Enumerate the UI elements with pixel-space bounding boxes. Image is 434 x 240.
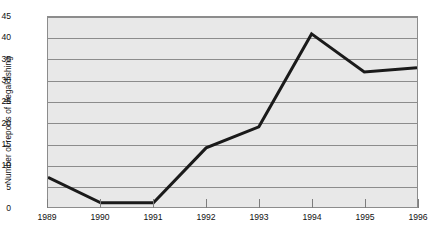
x-tick-label: 1994 [289, 212, 335, 222]
x-tick-label: 1993 [236, 212, 282, 222]
x-tick-label: 1990 [77, 212, 123, 222]
x-tick-label: 1991 [130, 212, 176, 222]
x-tick-mark [365, 199, 366, 208]
line-chart: Number of reports of illegal fishing 051… [0, 0, 434, 240]
x-tick-label: 1996 [395, 212, 434, 222]
x-tick-mark [100, 199, 101, 208]
x-tick-mark [418, 199, 419, 208]
x-tick-label: 1995 [342, 212, 388, 222]
x-tick-mark [259, 199, 260, 208]
x-tick-mark [206, 199, 207, 208]
x-tick-mark [47, 199, 48, 208]
x-tick-label: 1992 [183, 212, 229, 222]
x-tick-label: 1989 [24, 212, 70, 222]
x-tick-mark [312, 199, 313, 208]
x-axis-ticks: 19891990199119921993199419951996 [0, 0, 434, 240]
x-tick-mark [153, 199, 154, 208]
